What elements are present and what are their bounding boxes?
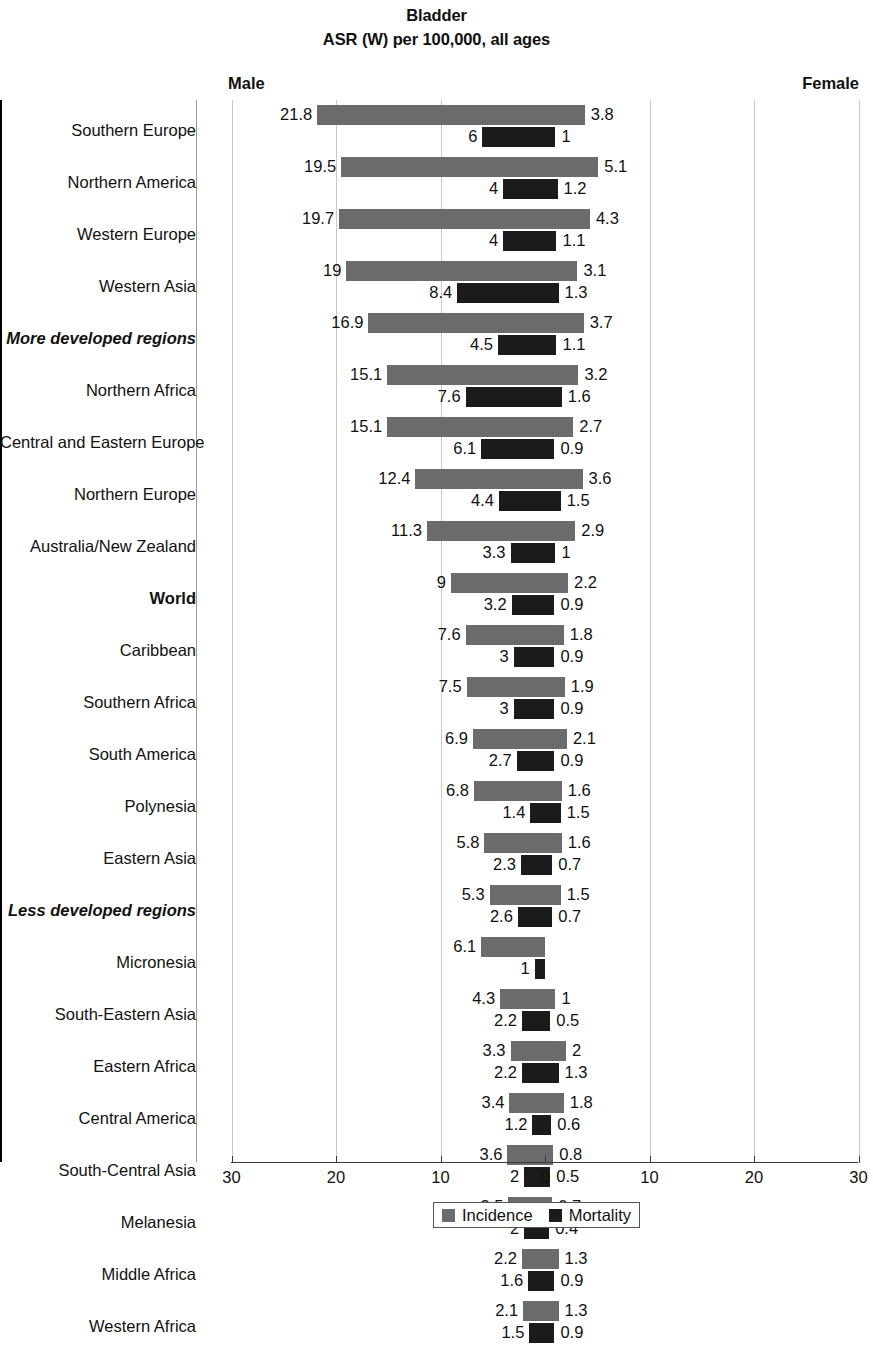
bar-female-incidence <box>545 1041 566 1061</box>
value-male-incidence: 6.1 <box>453 936 476 956</box>
chart-row: World92.23.20.9 <box>0 572 873 624</box>
bar-male-incidence <box>451 573 545 593</box>
axis-tick-label: 10 <box>431 1168 449 1187</box>
value-female-incidence: 1.8 <box>570 1092 593 1112</box>
value-male-incidence: 6.9 <box>445 728 468 748</box>
chart-row: Central and Eastern Europe15.12.76.10.9 <box>0 416 873 468</box>
bar-female-incidence <box>545 313 584 333</box>
bar-male-mortality <box>529 1323 545 1343</box>
bar-female-incidence <box>545 1093 564 1113</box>
value-female-mortality: 0.9 <box>560 1270 583 1290</box>
bar-female-mortality <box>545 699 554 719</box>
value-male-incidence: 3.3 <box>483 1040 506 1060</box>
chart-row: Eastern Asia5.81.62.30.7 <box>0 832 873 884</box>
bar-male-incidence <box>490 885 545 905</box>
value-female-mortality: 1.5 <box>567 802 590 822</box>
chart-row: Eastern Africa3.322.21.3 <box>0 1040 873 1092</box>
bar-female-mortality <box>545 543 555 563</box>
bar-male-mortality <box>514 647 545 667</box>
value-female-mortality: 0.9 <box>560 1322 583 1342</box>
axis-tick <box>859 1156 860 1163</box>
bar-male-incidence <box>481 937 545 957</box>
bar-male-incidence <box>341 157 545 177</box>
chart-row: Less developed regions5.31.52.60.7 <box>0 884 873 936</box>
value-female-incidence: 2.9 <box>581 520 604 540</box>
row-label: Caribbean <box>0 637 196 663</box>
value-female-mortality: 1.1 <box>562 334 585 354</box>
value-male-mortality: 4.5 <box>470 334 493 354</box>
bar-male-incidence <box>368 313 545 333</box>
value-male-mortality: 3 <box>499 646 508 666</box>
axis-tick-label: 20 <box>745 1168 763 1187</box>
bar-male-incidence <box>473 729 545 749</box>
value-female-incidence: 3.8 <box>591 104 614 124</box>
bar-female-mortality <box>545 595 554 615</box>
page-subtitle: ASR (W) per 100,000, all ages <box>0 30 873 49</box>
incidence-swatch-icon <box>442 1209 455 1222</box>
row-label: Northern Africa <box>0 377 196 403</box>
chart-row: Western Africa2.11.31.50.9 <box>0 1300 873 1347</box>
chart-row: Australia/New Zealand11.32.93.31 <box>0 520 873 572</box>
legend-label-mortality: Mortality <box>569 1207 631 1223</box>
bar-male-mortality <box>514 699 545 719</box>
bar-male-mortality <box>530 803 545 823</box>
value-female-mortality: 1.3 <box>565 1062 588 1082</box>
row-label: Western Europe <box>0 221 196 247</box>
row-label: Southern Africa <box>0 689 196 715</box>
axis-tick <box>441 1156 442 1163</box>
value-male-incidence: 7.6 <box>438 624 461 644</box>
bar-male-incidence <box>415 469 545 489</box>
bar-male-mortality <box>481 439 545 459</box>
row-label: Eastern Africa <box>0 1053 196 1079</box>
value-female-incidence: 1.6 <box>568 832 591 852</box>
bar-male-mortality <box>517 751 545 771</box>
row-label: South-Eastern Asia <box>0 1001 196 1027</box>
row-label: Australia/New Zealand <box>0 533 196 559</box>
bar-female-incidence <box>545 365 578 385</box>
axis-tick <box>754 1156 755 1163</box>
value-male-incidence: 3.6 <box>479 1144 502 1164</box>
bar-male-incidence <box>509 1093 545 1113</box>
value-male-incidence: 5.8 <box>456 832 479 852</box>
bar-female-incidence <box>545 625 564 645</box>
bar-female-incidence <box>545 417 573 437</box>
value-female-incidence: 3.1 <box>583 260 606 280</box>
value-male-incidence: 9 <box>437 572 446 592</box>
value-female-incidence: 2.7 <box>579 416 602 436</box>
bar-female-mortality <box>545 803 561 823</box>
bar-female-mortality <box>545 855 552 875</box>
row-label: Polynesia <box>0 793 196 819</box>
bar-male-incidence <box>387 417 545 437</box>
chart-row: Western Europe19.74.341.1 <box>0 208 873 260</box>
bar-female-incidence <box>545 209 590 229</box>
value-female-incidence: 2 <box>572 1040 581 1060</box>
row-label: Less developed regions <box>0 897 196 923</box>
bar-female-mortality <box>545 387 562 407</box>
bar-male-mortality <box>503 179 545 199</box>
axis-tick-label: 0 <box>540 1168 549 1187</box>
row-label: Middle Africa <box>0 1261 196 1287</box>
value-female-mortality: 0.7 <box>558 906 581 926</box>
bar-male-mortality <box>512 595 545 615</box>
value-female-incidence: 1.5 <box>567 884 590 904</box>
value-male-incidence: 12.4 <box>378 468 410 488</box>
value-female-incidence: 3.7 <box>590 312 613 332</box>
bar-male-mortality <box>499 491 545 511</box>
bar-male-incidence <box>511 1041 545 1061</box>
bar-female-mortality <box>545 907 552 927</box>
value-male-incidence: 15.1 <box>350 364 382 384</box>
value-female-mortality: 0.6 <box>557 1114 580 1134</box>
chart-legend: Incidence Mortality <box>433 1202 640 1228</box>
bar-male-mortality <box>535 959 545 979</box>
value-male-incidence: 21.8 <box>280 104 312 124</box>
chart-row: Central America3.41.81.20.6 <box>0 1092 873 1144</box>
value-male-incidence: 19 <box>323 260 341 280</box>
bar-female-mortality <box>545 1063 559 1083</box>
chart-row: Northern America19.55.141.2 <box>0 156 873 208</box>
bar-male-incidence <box>484 833 545 853</box>
value-male-mortality: 4.4 <box>471 490 494 510</box>
row-label: Western Africa <box>0 1313 196 1339</box>
value-male-mortality: 1.4 <box>502 802 525 822</box>
axis-tick-label: 30 <box>849 1168 867 1187</box>
value-female-incidence: 3.2 <box>584 364 607 384</box>
